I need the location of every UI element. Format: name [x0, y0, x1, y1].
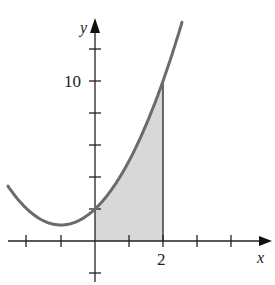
x-tick-label-2: 2	[157, 250, 166, 269]
y-axis-arrow-icon	[90, 18, 100, 33]
x-axis-label: x	[256, 249, 264, 266]
graph-figure: y x 10 2	[0, 0, 275, 285]
y-tick-label-10: 10	[64, 72, 81, 91]
y-axis-label: y	[78, 19, 88, 37]
x-axis-arrow-icon	[259, 236, 272, 246]
